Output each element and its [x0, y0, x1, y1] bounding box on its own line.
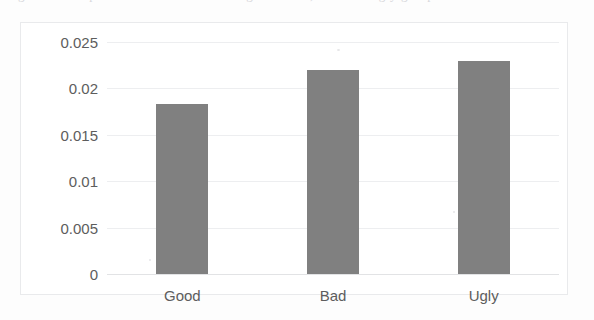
plot-area: 0.0250.020.0150.010.0050 GoodBadUgly: [107, 42, 559, 274]
y-axis-tick-label: 0.025: [60, 34, 98, 51]
x-axis-label-good: Good: [164, 287, 201, 304]
y-axis-tick-label: 0.02: [69, 80, 98, 97]
bar-bad[interactable]: [307, 70, 359, 274]
y-axis-tick-label: 0: [90, 266, 98, 283]
y-axis-tick-label: 0.005: [60, 219, 98, 236]
x-axis-label-bad: Bad: [320, 287, 347, 304]
cut-off-caption-sliver: Figure 3. Comparison of error rates amon…: [0, 0, 594, 10]
y-axis-tick-label: 0.015: [60, 126, 98, 143]
y-axis-tick-label: 0.01: [69, 173, 98, 190]
cut-off-caption-text: Figure 3. Comparison of error rates amon…: [6, 0, 440, 3]
bar-series: [107, 42, 559, 274]
gridline: [107, 274, 559, 275]
bar-good[interactable]: [156, 104, 208, 274]
chart-frame: 0.0250.020.0150.010.0050 GoodBadUgly: [20, 22, 568, 295]
x-axis-label-ugly: Ugly: [469, 287, 499, 304]
bar-ugly[interactable]: [458, 61, 510, 274]
